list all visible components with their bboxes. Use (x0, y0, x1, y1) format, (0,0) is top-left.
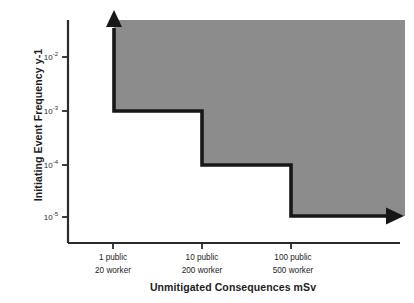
shaded-unacceptable-region (114, 20, 405, 216)
x-axis-title: Unmitigated Consequences mSv (68, 281, 398, 293)
x-tick-label-3-public: 100 public (274, 253, 311, 262)
y-tick-label-4: 10-5 (24, 211, 58, 222)
y-tick-mantissa-3: 10 (44, 161, 53, 170)
y-tick-label-3: 10-4 (24, 159, 58, 170)
risk-acceptance-chart: Initiating Event Frequency y-1 10-2 10-3… (0, 0, 414, 303)
y-axis-title: Initiating Event Frequency y-1 (32, 10, 44, 240)
y-tick-exponent-2: -3 (53, 105, 58, 111)
y-tick-mantissa-4: 10 (44, 213, 53, 222)
y-tick-exponent-3: -4 (53, 159, 58, 165)
y-tick-mantissa-2: 10 (44, 107, 53, 116)
y-tick-label-1: 10-2 (24, 51, 58, 62)
y-tick-exponent-1: -2 (53, 51, 58, 57)
x-tick-label-3: 100 public 500 worker (238, 252, 348, 277)
x-tick-label-3-worker: 500 worker (238, 265, 348, 278)
up-arrow-icon (106, 10, 122, 27)
x-tick-label-1-public: 1 public (99, 253, 127, 262)
x-tick-label-2-public: 10 public (186, 253, 219, 262)
y-tick-exponent-4: -5 (53, 211, 58, 217)
y-tick-label-2: 10-3 (24, 105, 58, 116)
y-tick-mantissa-1: 10 (44, 53, 53, 62)
